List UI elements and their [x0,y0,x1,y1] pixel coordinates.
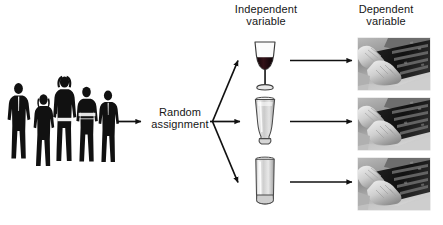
pilsner-beer-glass-icon [255,97,274,144]
hands-typing-keyboard-photo [358,38,430,90]
silhouette-person-1 [8,83,31,158]
silhouette-person-4 [76,87,97,162]
arrow-assignment-to-highball [213,122,239,183]
outcome-photo-1 [358,38,430,90]
arrow-assignment-to-wine [213,61,239,122]
outcome-photo-2 [358,98,430,150]
highball-glass-icon [256,157,275,204]
silhouette-person-5 [99,90,119,162]
diagram-canvas: Independent variable Dependent variable … [0,0,443,225]
silhouette-person-3 [53,76,76,161]
hands-typing-keyboard-photo [358,98,430,150]
outcome-photo-3 [358,158,430,210]
silhouette-person-2 [34,94,55,166]
hands-typing-keyboard-photo [358,158,430,210]
wine-glass-icon [255,42,275,90]
people-silhouettes-icon [8,76,119,166]
